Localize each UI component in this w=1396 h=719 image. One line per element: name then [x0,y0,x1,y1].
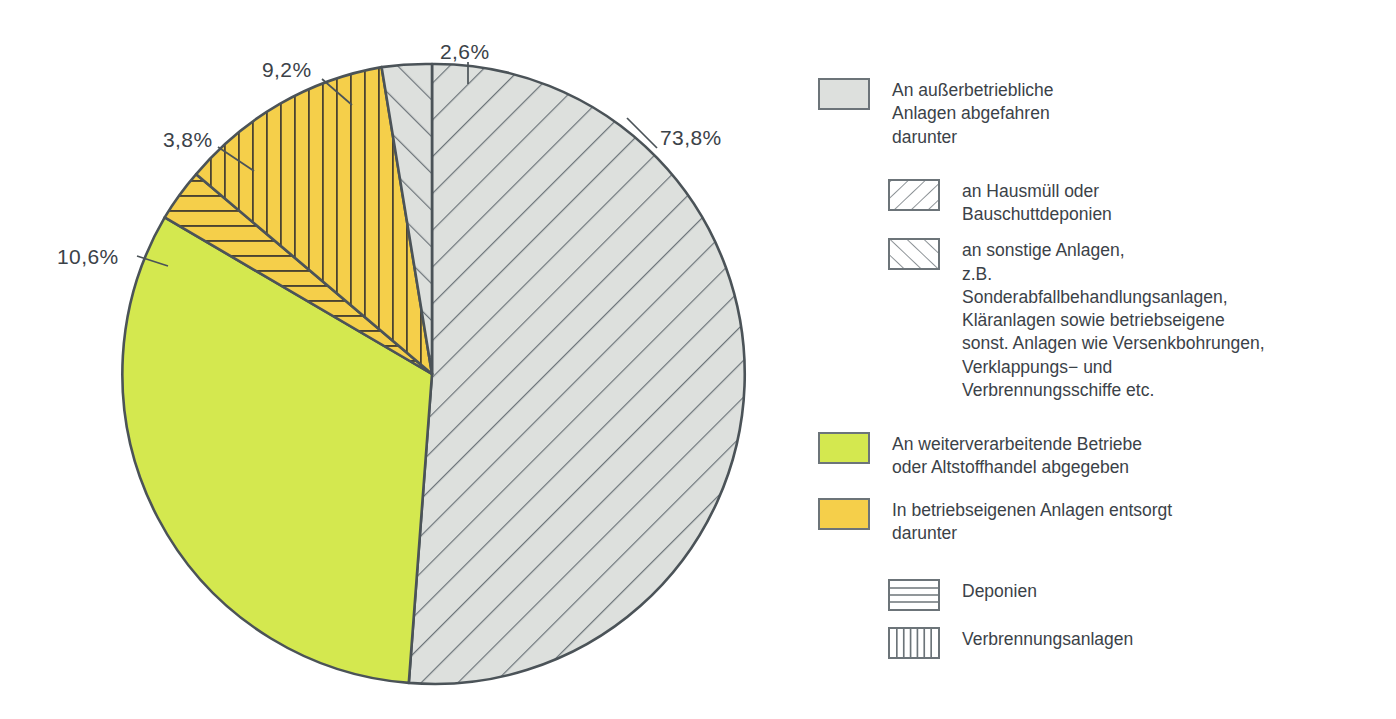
legend-item-label: An außerbetriebliche Anlagen abgefahren … [892,78,1053,149]
diagonal-forward-hatch-swatch [888,238,940,270]
legend-item-label: An weiterverarbeitende Betriebe oder Alt… [892,432,1142,480]
legend-line: Verklappungs− und [962,356,1265,379]
pie-chart [0,0,800,719]
pie-slice-73 [409,64,745,684]
diagonal-back-hatch-swatch [888,179,940,211]
legend-item-hausmuell-bauschutt: an Hausmüll oder Bauschuttdeponien [818,179,1388,227]
legend-line: Verbrennungsanlagen [962,628,1133,651]
legend-line: darunter [892,522,1172,545]
slice-label-92: 9,2% [262,58,311,82]
slice-label-73: 73,8% [660,126,722,150]
legend-line: z.B. [962,263,1265,286]
legend-line: An außerbetriebliche [892,79,1053,102]
legend-line: In betriebseigenen Anlagen entsorgt [892,499,1172,522]
legend-line: an Hausmüll oder [962,180,1112,203]
solid-amber-swatch [818,498,870,530]
chart-legend: An außerbetriebliche Anlagen abgefahren … [818,78,1388,659]
legend-item-label: Deponien [962,579,1037,603]
legend-item-ausserbetriebliche: An außerbetriebliche Anlagen abgefahren … [818,78,1388,149]
legend-line: an sonstige Anlagen, [962,239,1265,262]
legend-item-sonstige-anlagen: an sonstige Anlagen, z.B. Sonderabfallbe… [818,238,1388,402]
legend-item-betriebseigene-anlagen: In betriebseigenen Anlagen entsorgt daru… [818,498,1388,546]
chart-canvas: 73,8% 2,6% 9,2% 3,8% 10,6% An außerbetri… [0,0,1396,719]
legend-item-label: an sonstige Anlagen, z.B. Sonderabfallbe… [962,238,1265,402]
pie-chart-svg [0,0,800,719]
legend-item-label: Verbrennungsanlagen [962,627,1133,651]
legend-line: An weiterverarbeitende Betriebe [892,433,1142,456]
legend-item-weiterverarbeitende-betriebe: An weiterverarbeitende Betriebe oder Alt… [818,432,1388,480]
legend-line: Kläranlagen sowie betriebseigene [962,309,1265,332]
legend-item-label: In betriebseigenen Anlagen entsorgt daru… [892,498,1172,546]
legend-line: Bauschuttdeponien [962,203,1112,226]
legend-line: Deponien [962,580,1037,603]
legend-item-label: an Hausmüll oder Bauschuttdeponien [962,179,1112,227]
legend-line: darunter [892,126,1053,149]
slice-label-38: 3,8% [163,128,212,152]
slice-label-106: 10,6% [57,245,119,269]
legend-item-deponien: Deponien [818,579,1388,611]
horizontal-lines-swatch [888,579,940,611]
legend-item-verbrennungsanlagen: Verbrennungsanlagen [818,627,1388,659]
legend-line: oder Altstoffhandel abgegeben [892,456,1142,479]
vertical-lines-swatch [888,627,940,659]
solid-green-swatch [818,432,870,464]
legend-line: Verbrennungsschiffe etc. [962,379,1265,402]
slice-label-26: 2,6% [440,40,489,64]
legend-line: Sonderabfallbehandlungsanlagen, [962,286,1265,309]
legend-line: sonst. Anlagen wie Versenkbohrungen, [962,332,1265,355]
solid-gray-swatch [818,78,870,110]
legend-line: Anlagen abgefahren [892,102,1053,125]
